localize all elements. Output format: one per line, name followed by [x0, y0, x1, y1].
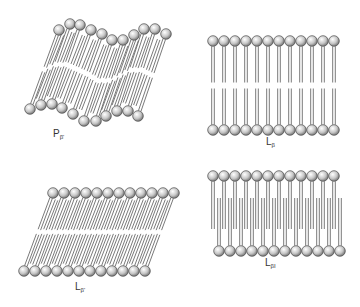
lipid-head-icon: [274, 125, 285, 136]
lipid-head-icon: [91, 116, 102, 127]
lipid-head-icon: [318, 125, 329, 136]
lipid-phase-diagram: [0, 0, 360, 307]
lipid-head-icon: [296, 125, 307, 136]
lipid-tail: [95, 45, 106, 75]
lipid-tail: [138, 37, 149, 68]
lipid-head-icon: [68, 109, 79, 120]
lipid-head-icon: [52, 266, 63, 277]
lipid-head-icon: [302, 246, 313, 257]
label-sub: β: [272, 142, 275, 148]
lipid-head-icon: [57, 103, 68, 114]
lipid-head-icon: [92, 188, 103, 199]
lipid-head-icon: [107, 35, 118, 46]
lipid-head-icon: [291, 246, 302, 257]
label-sub: βI: [271, 263, 276, 269]
lipid-head-icon: [133, 111, 144, 122]
lipid-head-icon: [125, 188, 136, 199]
lipid-tail: [131, 73, 142, 107]
lipid-tail: [63, 33, 74, 63]
panel-p-beta-prime: [25, 19, 172, 127]
lipid-tail: [91, 82, 102, 112]
lipid-tail: [79, 79, 90, 109]
lipid-head-icon: [129, 30, 140, 41]
lipid-head-icon: [79, 116, 90, 127]
lipid-head-icon: [107, 266, 118, 277]
lipid-head-icon: [225, 246, 236, 257]
lipid-head-icon: [329, 171, 340, 182]
lipid-head-icon: [219, 125, 230, 136]
lipid-tail: [30, 234, 42, 264]
lipid-head-icon: [140, 266, 151, 277]
lipid-head-icon: [169, 188, 180, 199]
lipid-head-icon: [41, 266, 52, 277]
lipid-head-icon: [307, 125, 318, 136]
lipid-tail: [68, 73, 80, 102]
lipid-tail: [47, 35, 59, 67]
lipid-head-icon: [118, 35, 129, 46]
lipid-head-icon: [97, 29, 108, 40]
lipid-head-icon: [19, 266, 30, 277]
lipid-head-icon: [25, 104, 36, 115]
lipid-head-icon: [219, 36, 230, 47]
lipid-head-icon: [103, 188, 114, 199]
lipid-head-icon: [75, 20, 86, 31]
lipid-head-icon: [86, 25, 97, 36]
lipid-head-icon: [161, 29, 172, 40]
lipid-head-icon: [241, 125, 252, 136]
panel-l-beta-prime: [19, 188, 180, 277]
panel-l-beta: [208, 36, 340, 136]
lipid-head-icon: [147, 188, 158, 199]
lipid-head-icon: [150, 24, 161, 35]
lipid-head-icon: [241, 171, 252, 182]
lipid-head-icon: [324, 246, 335, 257]
lipid-tail: [123, 72, 134, 103]
lipid-head-icon: [318, 171, 329, 182]
label-l-beta-prime: Lβ': [75, 281, 85, 293]
lipid-head-icon: [47, 99, 58, 110]
lipid-head-icon: [329, 125, 340, 136]
lipid-head-icon: [36, 100, 47, 111]
lipid-head-icon: [252, 125, 263, 136]
lipid-head-icon: [263, 125, 274, 136]
lipid-head-icon: [263, 171, 274, 182]
lipid-head-icon: [236, 246, 247, 257]
lipid-head-icon: [247, 246, 258, 257]
lipid-head-icon: [208, 171, 219, 182]
lipid-head-icon: [112, 106, 123, 117]
label-sub: β': [81, 287, 86, 293]
lipid-head-icon: [70, 188, 81, 199]
panel-l-beta-i: [208, 171, 346, 257]
lipid-head-icon: [230, 171, 241, 182]
lipid-head-icon: [129, 266, 140, 277]
lipid-head-icon: [85, 266, 96, 277]
label-l-beta-i: LβI: [265, 257, 276, 269]
lipid-head-icon: [208, 125, 219, 136]
lipid-head-icon: [329, 36, 340, 47]
lipid-head-icon: [139, 24, 150, 35]
lipid-tail: [44, 35, 56, 67]
lipid-head-icon: [74, 266, 85, 277]
lipid-head-icon: [208, 36, 219, 47]
lipid-tail: [87, 39, 99, 72]
lipid-head-icon: [307, 36, 318, 47]
label-l-beta: Lβ: [266, 136, 275, 148]
lipid-head-icon: [274, 36, 285, 47]
lipid-head-icon: [263, 36, 274, 47]
lipid-head-icon: [318, 36, 329, 47]
lipid-head-icon: [285, 171, 296, 182]
lipid-tail: [98, 45, 109, 78]
lipid-head-icon: [252, 36, 263, 47]
lipid-tail: [73, 36, 84, 65]
lipid-head-icon: [230, 125, 241, 136]
lipid-head-icon: [63, 266, 74, 277]
lipid-head-icon: [252, 171, 263, 182]
lipid-head-icon: [296, 171, 307, 182]
lipid-tail: [76, 35, 88, 67]
lipid-head-icon: [313, 246, 324, 257]
lipid-tail: [141, 78, 152, 112]
lipid-tail: [84, 40, 96, 69]
lipid-head-icon: [214, 246, 225, 257]
lipid-tail: [134, 74, 145, 105]
lipid-head-icon: [285, 36, 296, 47]
lipid-head-icon: [269, 246, 280, 257]
